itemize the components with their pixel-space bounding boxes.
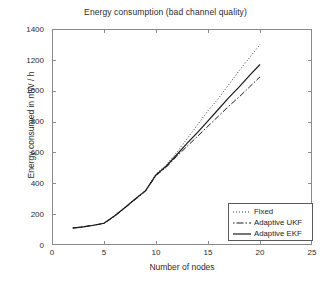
- dash-dot-line-icon: [232, 218, 252, 228]
- chart-figure: Energy consumption (bad channel quality)…: [0, 0, 331, 283]
- legend: Fixed Adaptive UKF Adaptive EKF: [228, 203, 313, 241]
- x-tick-label: 5: [89, 248, 119, 257]
- x-tick-label: 10: [141, 248, 171, 257]
- y-tick-label: 800: [0, 117, 44, 126]
- legend-item-adaptive-ukf: Adaptive UKF: [229, 217, 312, 228]
- x-tick-label: 15: [193, 248, 223, 257]
- legend-label: Adaptive EKF: [254, 229, 302, 238]
- y-tick-label: 600: [0, 148, 44, 157]
- y-tick-label: 1400: [0, 25, 44, 34]
- dotted-line-icon: [232, 207, 252, 217]
- y-tick-label: 1000: [0, 86, 44, 95]
- series-line-fixed: [73, 44, 260, 228]
- legend-label: Adaptive UKF: [254, 218, 302, 227]
- x-tick-label: 20: [245, 248, 275, 257]
- x-tick-label: 0: [37, 248, 67, 257]
- solid-line-icon: [232, 229, 252, 239]
- y-tick-label: 400: [0, 179, 44, 188]
- legend-label: Fixed: [254, 207, 273, 216]
- x-tick-label: 25: [297, 248, 327, 257]
- y-tick-label: 200: [0, 210, 44, 219]
- legend-item-fixed: Fixed: [229, 206, 312, 217]
- legend-item-adaptive-ekf: Adaptive EKF: [229, 228, 312, 239]
- x-axis-label: Number of nodes: [52, 262, 312, 272]
- y-axis-label: Energy consumed in mW / h: [26, 40, 36, 210]
- chart-title: Energy consumption (bad channel quality): [0, 7, 331, 17]
- y-tick-label: 1200: [0, 56, 44, 65]
